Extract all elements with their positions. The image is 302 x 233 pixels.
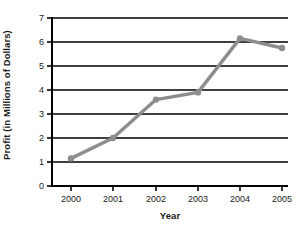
y-axis-title: Profit (in Millions of Dollars) — [0, 0, 14, 190]
data-point-2002 — [153, 96, 159, 102]
y-tick-label-5: 5 — [28, 61, 44, 71]
y-tick-label-4: 4 — [28, 85, 44, 95]
y-tick-label-2: 2 — [28, 133, 44, 143]
y-tick-label-0: 0 — [28, 181, 44, 191]
x-tick-label-2000: 2000 — [54, 194, 88, 204]
y-axis — [47, 17, 52, 187]
data-point-2000 — [68, 155, 74, 161]
x-tick-label-2005: 2005 — [265, 194, 299, 204]
x-tick-label-2001: 2001 — [96, 194, 130, 204]
x-axis — [51, 186, 288, 191]
line-chart: 7 6 5 4 3 2 1 0 2000 2001 2002 2003 2004… — [0, 0, 302, 233]
y-tick-label-7: 7 — [28, 13, 44, 23]
data-point-2004 — [237, 35, 243, 41]
y-tick-label-3: 3 — [28, 109, 44, 119]
data-point-2003 — [195, 89, 201, 95]
y-tick-label-6: 6 — [28, 37, 44, 47]
x-tick-label-2002: 2002 — [139, 194, 173, 204]
x-axis-title: Year — [52, 210, 288, 221]
y-tick-label-1: 1 — [28, 157, 44, 167]
x-tick-label-2004: 2004 — [223, 194, 257, 204]
data-series-profit — [68, 35, 285, 161]
data-point-2005 — [279, 45, 285, 51]
x-tick-label-2003: 2003 — [181, 194, 215, 204]
data-point-2001 — [110, 135, 116, 141]
